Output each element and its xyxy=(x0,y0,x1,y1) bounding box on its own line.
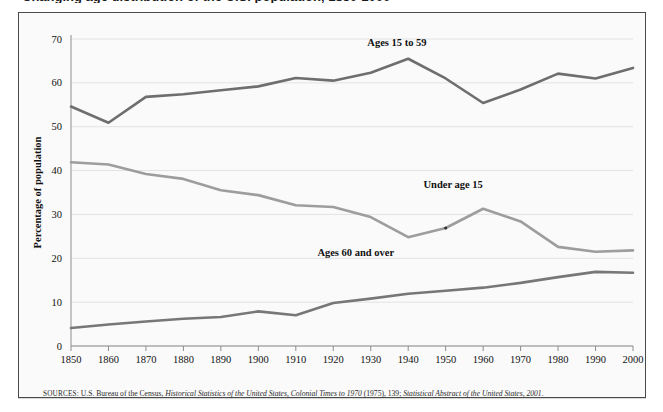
source-part-2: (1975), 139; xyxy=(362,389,403,398)
y-tick-label-70: 70 xyxy=(52,34,63,45)
y-tick-label-30: 30 xyxy=(52,209,63,220)
x-tick-label-1860: 1860 xyxy=(98,354,119,365)
figure-root: Changing age distribution of the U.S. po… xyxy=(0,0,663,412)
x-tick-label-1890: 1890 xyxy=(210,354,231,365)
source-italic-1: Historical Statistics of the United Stat… xyxy=(165,389,362,398)
figure-title-clipped: Changing age distribution of the U.S. po… xyxy=(22,0,422,3)
series-line-ages-15-to-59 xyxy=(71,59,633,123)
series-line-under-age-15 xyxy=(71,162,633,251)
x-tick-label-group: 1850186018701880189019001910192019301940… xyxy=(61,354,644,365)
y-axis-title: Percentage of population xyxy=(32,136,43,248)
x-tick-label-1910: 1910 xyxy=(285,354,306,365)
x-tick-label-1930: 1930 xyxy=(360,354,381,365)
x-tick-group xyxy=(71,346,633,351)
data-point-marker-under-age-15-1950 xyxy=(444,226,447,229)
label-ages-15-to-59: Ages 15 to 59 xyxy=(367,37,426,48)
series-line-ages-60-and-over xyxy=(71,272,633,328)
y-tick-label-10: 10 xyxy=(52,297,63,308)
label-ages-60-and-over: Ages 60 and over xyxy=(317,247,394,258)
x-tick-label-1870: 1870 xyxy=(135,354,156,365)
x-tick-label-1850: 1850 xyxy=(61,354,82,365)
line-chart: 010203040506070 185018601870188018901900… xyxy=(19,13,647,399)
label-under-age-15: Under age 15 xyxy=(424,179,483,190)
y-tick-label-20: 20 xyxy=(52,253,63,264)
axes-group xyxy=(71,35,633,346)
source-note: SOURCES: U.S. Bureau of the Census, Hist… xyxy=(43,389,658,399)
x-tick-label-1960: 1960 xyxy=(473,354,494,365)
x-tick-label-1920: 1920 xyxy=(323,354,344,365)
figure-frame: 010203040506070 185018601870188018901900… xyxy=(18,12,646,398)
source-part-3: . xyxy=(542,389,544,398)
x-tick-label-1880: 1880 xyxy=(173,354,194,365)
x-tick-label-2000: 2000 xyxy=(623,354,644,365)
y-axis-title-group: Percentage of population xyxy=(32,136,43,248)
annotation-group: Ages 15 to 59Under age 15Ages 60 and ove… xyxy=(317,37,482,258)
y-tick-label-0: 0 xyxy=(57,341,62,352)
x-tick-label-1940: 1940 xyxy=(398,354,419,365)
x-tick-label-1980: 1980 xyxy=(548,354,569,365)
x-tick-label-1990: 1990 xyxy=(585,354,606,365)
source-part-1: U.S. Bureau of the Census, xyxy=(79,389,165,398)
source-italic-2: Statistical Abstract of the United State… xyxy=(403,389,541,398)
source-label: SOURCES: xyxy=(43,390,79,398)
y-tick-label-50: 50 xyxy=(52,121,63,132)
y-tick-label-60: 60 xyxy=(52,77,63,88)
plot-area: 010203040506070 185018601870188018901900… xyxy=(19,13,647,399)
y-tick-label-40: 40 xyxy=(52,165,63,176)
y-tick-label-group: 010203040506070 xyxy=(52,34,63,352)
x-tick-label-1970: 1970 xyxy=(510,354,531,365)
series-group xyxy=(71,59,633,328)
x-tick-label-1950: 1950 xyxy=(435,354,456,365)
x-tick-label-1900: 1900 xyxy=(248,354,269,365)
